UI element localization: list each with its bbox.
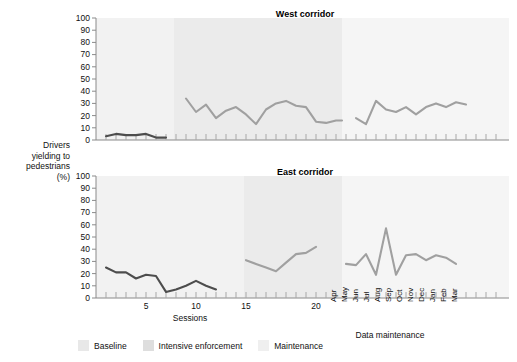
legend-label-intensive-enforcement: Intensive enforcement	[159, 341, 243, 351]
ytick-west-10: 10	[68, 123, 90, 133]
xtick-month-jul: Jul	[362, 292, 371, 302]
xtick-month-nov: Nov	[406, 288, 415, 302]
xtick-month-oct: Oct	[395, 290, 404, 302]
ytick-west-70: 70	[68, 49, 90, 59]
xtick-session-5: 5	[138, 301, 154, 311]
ytick-east-30: 30	[68, 256, 90, 266]
y-ticks-west	[92, 18, 96, 140]
ytick-west-40: 40	[68, 86, 90, 96]
ytick-east-20: 20	[68, 269, 90, 279]
ytick-east-10: 10	[68, 281, 90, 291]
legend-swatch-maintenance	[258, 340, 269, 351]
ytick-west-20: 20	[68, 111, 90, 121]
ytick-west-80: 80	[68, 37, 90, 47]
ytick-east-70: 70	[68, 207, 90, 217]
ytick-east-100: 100	[68, 171, 90, 181]
xtick-month-apr: Apr	[329, 290, 338, 302]
ytick-east-60: 60	[68, 220, 90, 230]
band-intensive-east	[244, 176, 342, 298]
ytick-west-90: 90	[68, 25, 90, 35]
xtick-month-sep: Sep	[384, 288, 393, 302]
ytick-west-30: 30	[68, 98, 90, 108]
legend-item-intensive-enforcement: Intensive enforcement	[143, 340, 243, 351]
xtick-month-feb: Feb	[439, 288, 448, 302]
band-maintenance-east	[342, 176, 509, 298]
band-baseline-east	[96, 176, 244, 298]
legend-swatch-intensive-enforcement	[143, 340, 154, 351]
xtick-month-jun: Jun	[351, 289, 360, 302]
band-baseline-west	[96, 18, 174, 140]
legend-label-baseline: Baseline	[94, 341, 127, 351]
ytick-east-0: 0	[68, 293, 90, 303]
legend-swatch-baseline	[78, 340, 89, 351]
xtick-session-20: 20	[308, 301, 324, 311]
xtick-month-dec: Dec	[417, 288, 426, 302]
xtick-session-10: 10	[188, 301, 204, 311]
xtick-month-may: May	[340, 287, 349, 302]
x-axis-label-sessions: Sessions	[160, 313, 220, 323]
ytick-west-0: 0	[68, 135, 90, 145]
y-ticks-east	[92, 176, 96, 298]
ytick-east-80: 80	[68, 195, 90, 205]
ytick-east-90: 90	[68, 183, 90, 193]
ytick-west-50: 50	[68, 74, 90, 84]
legend-label-maintenance: Maintenance	[274, 341, 323, 351]
xtick-month-mar: Mar	[450, 288, 459, 302]
x-axis-label-data-maintenance: Data maintenance	[330, 330, 450, 340]
legend-item-maintenance: Maintenance	[258, 340, 323, 351]
ytick-east-50: 50	[68, 232, 90, 242]
ytick-west-60: 60	[68, 62, 90, 72]
legend: Baseline Intensive enforcement Maintenan…	[78, 340, 339, 351]
xtick-session-15: 15	[238, 301, 254, 311]
xtick-month-aug: Aug	[373, 288, 382, 302]
figure-root: Driversyielding topedestrians(%) West co…	[0, 0, 517, 362]
xtick-month-jan: Jan	[428, 289, 437, 302]
ytick-east-40: 40	[68, 244, 90, 254]
ytick-west-100: 100	[68, 13, 90, 23]
legend-item-baseline: Baseline	[78, 340, 127, 351]
